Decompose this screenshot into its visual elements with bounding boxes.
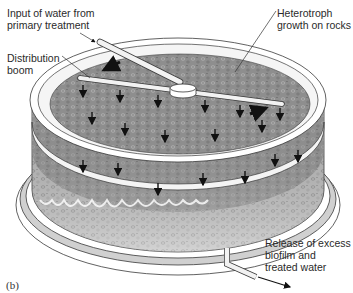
label-input-water: Input of water from primary treatment xyxy=(7,7,95,31)
label-release: Release of excess biofilm and treated wa… xyxy=(265,237,351,273)
label-distribution-boom: Distribution boom xyxy=(7,52,60,76)
top-surface xyxy=(30,38,326,162)
outflow-arrow-icon xyxy=(258,277,290,287)
panel-label: (b) xyxy=(6,279,19,291)
label-heterotroph-growth: Heterotroph growth on rocks xyxy=(277,7,351,31)
